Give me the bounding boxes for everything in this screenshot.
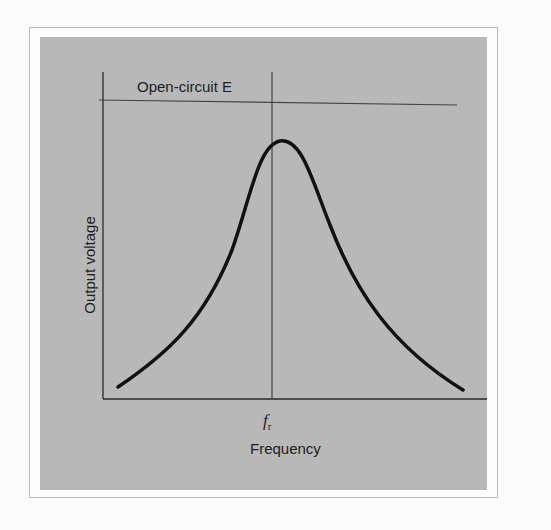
resonant-frequency-label: fr: [263, 411, 271, 432]
open-circuit-e-label: Open-circuit E: [137, 78, 232, 95]
response-curve: [118, 141, 463, 390]
open-circuit-e-line: [99, 100, 457, 105]
x-axis-label: Frequency: [250, 440, 321, 457]
y-axis-label: Output voltage: [81, 216, 98, 314]
marker-subscript: r: [268, 420, 272, 432]
